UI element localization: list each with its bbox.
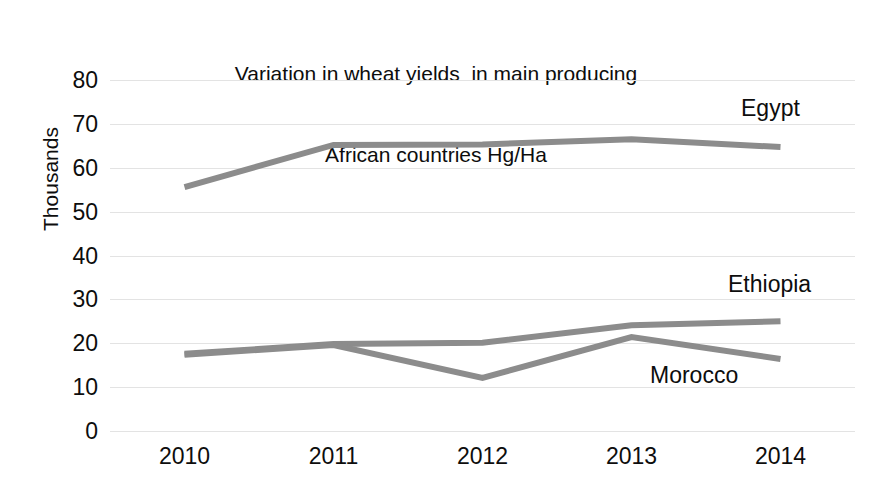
y-axis-tick-label: 10 [54,376,98,399]
x-axis-tick-labels: 20102011201220132014 [110,443,855,477]
x-axis-tick-label: 2011 [274,443,394,469]
x-axis-tick-label: 2012 [423,443,543,469]
x-axis-tick-label: 2013 [572,443,692,469]
y-axis-tick-label: 70 [54,113,98,136]
y-axis-tick-label: 0 [54,420,98,443]
gridline [110,431,855,432]
x-axis-tick-label: 2010 [125,443,245,469]
y-axis-tick-label: 30 [54,288,98,311]
x-axis-tick-label: 2014 [721,443,841,469]
y-axis-tick-label: 20 [54,332,98,355]
y-axis-tick-label: 40 [54,245,98,268]
y-axis-tick-labels: 80706050403020100 [46,80,98,431]
series-label-morocco: Morocco [650,362,738,388]
plot-area: EgyptEthiopiaMorocco [110,80,855,431]
series-label-ethiopia: Ethiopia [728,271,811,297]
y-axis-tick-label: 60 [54,157,98,180]
y-axis-tick-label: 50 [54,201,98,224]
series-lines [110,80,855,431]
y-axis-tick-label: 80 [54,69,98,92]
series-label-egypt: Egypt [741,95,800,121]
chart-screenshot: Variation in wheat yields in main produc… [0,0,872,493]
series-line-egypt [185,139,781,187]
